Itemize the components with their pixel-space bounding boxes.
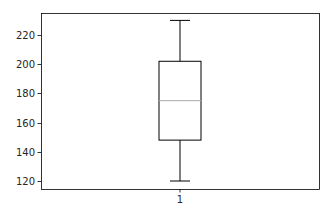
y-tick-label: 160 [16,118,35,129]
y-tick-label: 200 [16,59,35,70]
x-tick-label: 1 [177,194,183,205]
box-plot-chart: 1201401601802002201 [0,0,335,208]
y-tick-label: 120 [16,176,35,187]
plot-area: 1201401601802002201 [16,14,320,206]
y-tick-label: 220 [16,30,35,41]
y-tick-label: 180 [16,88,35,99]
y-tick-label: 140 [16,147,35,158]
